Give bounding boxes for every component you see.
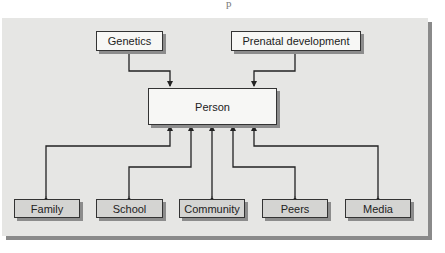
arrow-family-person <box>46 126 170 197</box>
arrow-genetics-person <box>129 50 170 86</box>
community-label: Community <box>184 203 240 215</box>
person-box: Person <box>148 88 277 125</box>
prenatal-development-label: Prenatal development <box>242 35 349 47</box>
genetics-label: Genetics <box>108 35 151 47</box>
peers-label: Peers <box>281 203 310 215</box>
person-label: Person <box>195 101 230 113</box>
community-box: Community <box>179 199 245 218</box>
media-label: Media <box>363 203 393 215</box>
school-box: School <box>96 199 163 218</box>
arrow-prenatal-person <box>254 51 295 86</box>
school-label: School <box>113 203 147 215</box>
media-box: Media <box>345 199 411 218</box>
arrow-school-person <box>129 126 191 197</box>
arrow-peers-person <box>233 126 295 197</box>
family-box: Family <box>14 199 80 218</box>
peers-box: Peers <box>262 199 328 218</box>
arrow-media-person <box>254 126 378 197</box>
family-label: Family <box>31 203 63 215</box>
genetics-box: Genetics <box>96 31 163 51</box>
prenatal-development-box: Prenatal development <box>231 31 361 51</box>
